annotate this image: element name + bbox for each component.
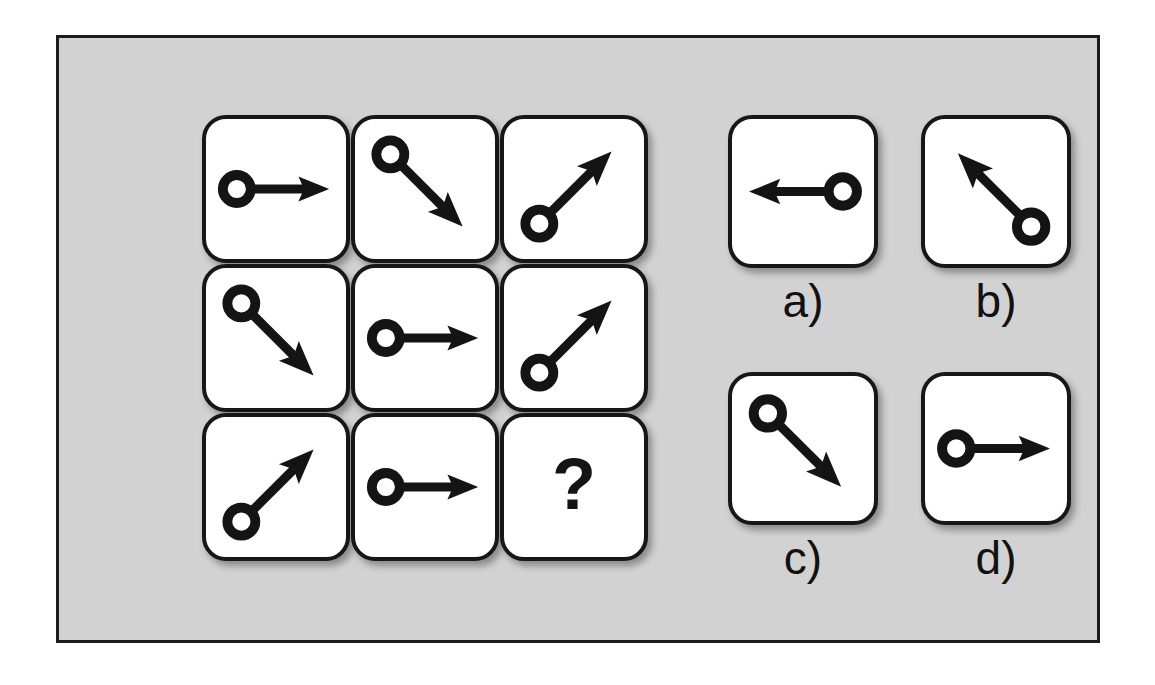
arrow-down-right-icon bbox=[732, 376, 874, 521]
option-a-label: a) bbox=[728, 278, 878, 324]
option-c-tile[interactable] bbox=[728, 372, 878, 525]
arrow-right-icon bbox=[355, 417, 495, 557]
option-d-label: d) bbox=[921, 535, 1071, 581]
matrix-cell-r1c1 bbox=[202, 115, 350, 263]
arrow-right-icon bbox=[355, 268, 495, 408]
arrow-up-left-icon bbox=[925, 119, 1067, 264]
arrow-right-icon bbox=[925, 376, 1067, 521]
matrix-cell-r1c3 bbox=[500, 115, 648, 263]
matrix-cell-r1c2 bbox=[351, 115, 499, 263]
arrow-down-right-icon bbox=[206, 268, 346, 408]
arrow-up-right-icon bbox=[206, 417, 346, 557]
matrix-cell-r3c2 bbox=[351, 413, 499, 561]
matrix-cell-r2c2 bbox=[351, 264, 499, 412]
option-b-tile[interactable] bbox=[921, 115, 1071, 268]
arrow-down-right-icon bbox=[355, 119, 495, 259]
matrix-cell-r3c1 bbox=[202, 413, 350, 561]
option-a-tile[interactable] bbox=[728, 115, 878, 268]
matrix-cell-r2c1 bbox=[202, 264, 350, 412]
question-mark: ? bbox=[504, 417, 644, 557]
matrix-cell-r2c3 bbox=[500, 264, 648, 412]
arrow-up-right-icon bbox=[504, 119, 644, 259]
arrow-right-icon bbox=[206, 119, 346, 259]
option-d-tile[interactable] bbox=[921, 372, 1071, 525]
option-c-label: c) bbox=[728, 535, 878, 581]
arrow-up-right-icon bbox=[504, 268, 644, 408]
arrow-left-icon bbox=[732, 119, 874, 264]
puzzle-frame: ? a) b) c) bbox=[56, 35, 1100, 643]
matrix-cell-r3c3-missing: ? bbox=[500, 413, 648, 561]
option-b-label: b) bbox=[921, 278, 1071, 324]
